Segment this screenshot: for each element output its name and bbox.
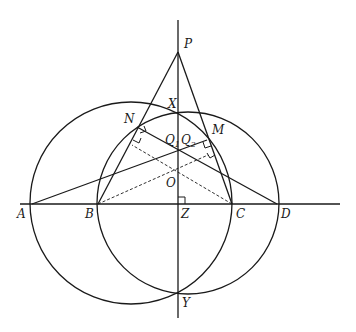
label-A: A xyxy=(16,207,26,221)
label-O: O xyxy=(166,176,176,190)
label-M: M xyxy=(211,123,225,137)
label-C: C xyxy=(236,207,245,221)
line-ND xyxy=(137,127,277,204)
right-angle-mark-N2 xyxy=(133,138,141,143)
label-P: P xyxy=(183,37,193,51)
label-B: B xyxy=(84,207,94,221)
label-D: D xyxy=(280,207,291,221)
label-N: N xyxy=(123,112,135,126)
geometry-diagram: P X N M Q1 Q2 O A B Z C D Y xyxy=(0,0,356,332)
label-Y: Y xyxy=(182,296,191,310)
label-X: X xyxy=(167,97,177,111)
line-AM xyxy=(32,140,207,204)
dashed-line-C-foot xyxy=(132,145,232,204)
label-Z: Z xyxy=(180,207,190,221)
dashed-line-B-foot xyxy=(98,155,208,204)
right-angle-mark-Z xyxy=(178,197,185,204)
label-Q2: Q2 xyxy=(181,133,196,149)
